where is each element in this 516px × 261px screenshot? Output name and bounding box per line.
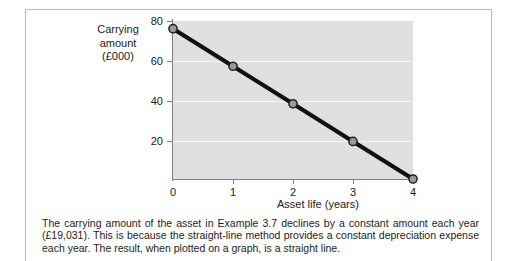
caption-text: The carrying amount of the asset in Exam… [42, 217, 479, 254]
data-point-2 [289, 100, 297, 108]
chart: 80 60 40 20 0 1 2 3 4 Carrying amount (£… [26, 10, 493, 210]
data-point-0 [169, 25, 177, 33]
figure-container: 80 60 40 20 0 1 2 3 4 Carrying amount (£… [25, 9, 492, 261]
figure-caption: The carrying amount of the asset in Exam… [42, 217, 479, 254]
data-series-line [26, 10, 493, 210]
data-point-1 [229, 62, 237, 70]
data-point-3 [349, 137, 357, 145]
data-point-4 [409, 175, 417, 183]
